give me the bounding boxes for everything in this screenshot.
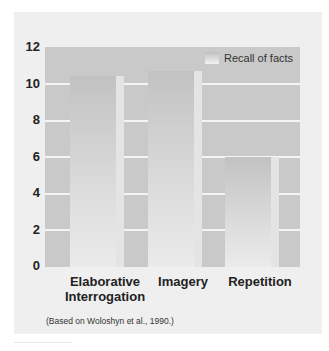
- y-tick-0: 0: [24, 258, 40, 273]
- bar-imagery: [148, 71, 194, 267]
- bar-repetition: [225, 157, 271, 267]
- y-tick-8: 8: [24, 112, 40, 127]
- x-label-line: Elaborative: [50, 274, 160, 289]
- bar-elaborative-interrogation: [70, 76, 116, 267]
- divider: [14, 342, 72, 343]
- legend-label: Recall of facts: [224, 52, 293, 64]
- legend: Recall of facts: [205, 52, 293, 64]
- plot-area: [45, 47, 300, 267]
- x-label-elaborative-interrogation: Elaborative Interrogation: [50, 274, 160, 304]
- y-tick-10: 10: [24, 76, 40, 91]
- bar-shadow: [194, 71, 202, 267]
- x-label-imagery: Imagery: [148, 274, 218, 289]
- y-tick-6: 6: [24, 149, 40, 164]
- bar-shadow: [271, 157, 279, 267]
- legend-swatch-icon: [205, 52, 219, 64]
- source-note: (Based on Woloshyn et al., 1990.): [46, 316, 174, 326]
- y-tick-12: 12: [24, 39, 40, 54]
- y-tick-4: 4: [24, 185, 40, 200]
- bar-shadow: [116, 76, 124, 267]
- y-tick-2: 2: [24, 222, 40, 237]
- x-label-line: Interrogation: [50, 289, 160, 304]
- x-label-repetition: Repetition: [215, 274, 305, 289]
